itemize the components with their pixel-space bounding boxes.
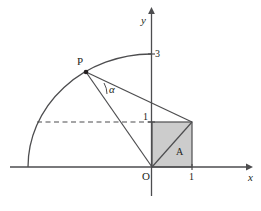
y-axis-label: y (141, 15, 146, 26)
segment-p-to-square-corner (86, 72, 192, 122)
circle-arc (28, 54, 151, 167)
y-tick-1-label: 1 (143, 112, 148, 122)
figure-canvas (0, 0, 261, 211)
x-axis-arrowhead (246, 164, 253, 171)
angle-alpha-label: α (109, 84, 115, 95)
geometry-figure: P α 3 1 1 O y x A (0, 0, 261, 211)
origin-label: O (142, 171, 150, 182)
point-p-label: P (77, 56, 83, 67)
x-tick-1-label: 1 (189, 172, 194, 182)
angle-alpha-arc (104, 83, 107, 94)
x-axis-label: x (248, 172, 253, 183)
shaded-region-label: A (176, 147, 183, 157)
y-axis-arrowhead (148, 7, 155, 14)
point-p-marker (84, 70, 89, 75)
y-tick-3-label: 3 (155, 49, 160, 59)
